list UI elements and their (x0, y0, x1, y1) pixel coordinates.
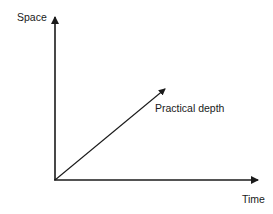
time-axis-label: Time (242, 194, 265, 205)
practical-depth-label: Practical depth (155, 103, 224, 114)
space-time-diagram (0, 0, 273, 214)
practical-depth-vector (55, 89, 165, 180)
space-axis-label: Space (17, 12, 47, 23)
